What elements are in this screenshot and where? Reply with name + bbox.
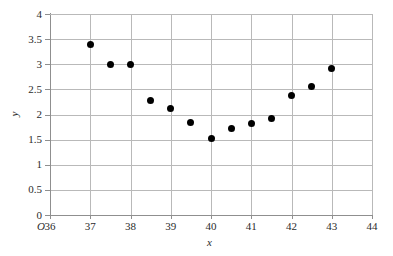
data-point <box>208 135 215 142</box>
x-axis-tick-label: 36 <box>45 221 56 232</box>
x-axis-tick-label: 38 <box>125 221 136 232</box>
y-axis-tick <box>45 165 50 166</box>
gridline-vertical <box>171 14 172 215</box>
y-axis-tick-label: 0 <box>37 210 43 221</box>
y-axis-line <box>50 13 51 216</box>
y-axis-tick-label: 2.5 <box>28 84 42 95</box>
gridline-vertical <box>211 14 212 215</box>
x-axis-tick <box>211 215 212 219</box>
y-axis-tick <box>45 89 50 90</box>
scatter-chart: O x y 00.511.522.533.5436373839404142434… <box>0 0 393 256</box>
x-axis-tick <box>372 215 373 219</box>
x-axis-tick <box>50 215 51 219</box>
gridline-vertical <box>292 14 293 215</box>
x-axis-title-text: x <box>207 236 212 248</box>
x-axis-tick-label: 44 <box>367 221 378 232</box>
data-point <box>167 105 174 112</box>
plot-frame-top <box>50 14 373 15</box>
x-axis-tick-label: 43 <box>326 221 337 232</box>
y-axis-tick-label: 4 <box>37 9 43 20</box>
x-axis-tick-label: 42 <box>286 221 297 232</box>
data-point <box>127 61 134 68</box>
x-axis-tick-label: 40 <box>206 221 217 232</box>
y-axis-tick <box>45 115 50 116</box>
x-axis-tick <box>251 215 252 219</box>
gridline-vertical <box>131 14 132 215</box>
x-axis-tick <box>292 215 293 219</box>
data-point <box>147 97 154 104</box>
x-axis-title: x <box>0 236 393 248</box>
data-point <box>87 41 94 48</box>
y-axis-tick-label: 2 <box>37 109 43 120</box>
x-axis-tick <box>171 215 172 219</box>
plot-frame-right <box>372 14 373 216</box>
data-point <box>228 125 235 132</box>
y-axis-tick <box>45 140 50 141</box>
data-point <box>268 115 275 122</box>
gridline-vertical <box>251 14 252 215</box>
x-axis-tick-label: 41 <box>246 221 257 232</box>
y-axis-tick <box>45 64 50 65</box>
plot-area <box>50 14 372 215</box>
data-point <box>187 119 194 126</box>
x-axis-tick-label: 39 <box>165 221 176 232</box>
y-axis-tick-label: 3 <box>37 59 43 70</box>
gridline-vertical <box>332 14 333 215</box>
y-axis-tick-label: 0.5 <box>28 184 42 195</box>
x-axis-tick <box>131 215 132 219</box>
y-axis-tick-label: 1.5 <box>28 134 42 145</box>
x-axis-tick-label: 37 <box>85 221 96 232</box>
y-axis-tick-label: 3.5 <box>28 34 42 45</box>
data-point <box>288 92 295 99</box>
y-axis-tick-label: 1 <box>37 159 43 170</box>
data-point <box>107 61 114 68</box>
data-point <box>328 65 335 72</box>
data-point <box>248 120 255 127</box>
x-axis-tick <box>332 215 333 219</box>
y-axis-tick <box>45 39 50 40</box>
x-axis-tick <box>90 215 91 219</box>
y-axis-title: y <box>8 112 20 117</box>
y-axis-tick <box>45 14 50 15</box>
y-axis-tick <box>45 190 50 191</box>
